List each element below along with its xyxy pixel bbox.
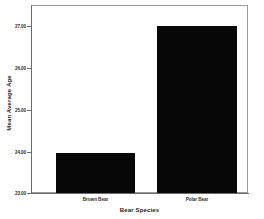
bar-chart: 27.00 26.00 25.00 24.00 23.00 Brown Bear…: [0, 0, 264, 219]
x-axis-line: [31, 193, 249, 194]
x-axis-tick-label-polar-bear: Polar Bear: [157, 197, 237, 203]
y-axis-tick: [27, 193, 31, 194]
y-axis-line: [31, 5, 32, 194]
x-axis-title: Bear Species: [31, 206, 248, 214]
y-axis-tick: [27, 152, 31, 153]
y-axis-tick-label: 24.00: [15, 150, 26, 155]
x-axis-tick-label-brown-bear: Brown Bear: [56, 197, 135, 203]
y-axis-tick-label: 23.00: [15, 191, 26, 196]
y-axis-tick: [27, 68, 31, 69]
bar-brown-bear: [56, 153, 135, 193]
y-axis-tick-label: 27.00: [15, 24, 26, 29]
y-axis-tick-label: 25.00: [15, 108, 26, 113]
y-axis-tick: [27, 26, 31, 27]
y-axis-tick: [27, 110, 31, 111]
y-axis-tick-label: 26.00: [15, 66, 26, 71]
bar-polar-bear: [157, 26, 237, 193]
y-axis-title: Mean Average Age: [5, 53, 13, 153]
